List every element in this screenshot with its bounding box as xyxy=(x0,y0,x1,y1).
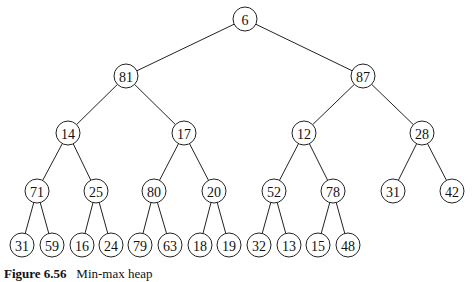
tree-node: 31 xyxy=(381,179,405,203)
tree-edge xyxy=(203,203,211,234)
node-label: 78 xyxy=(326,185,340,200)
tree-node: 25 xyxy=(84,179,108,203)
tree-node: 71 xyxy=(25,179,49,203)
tree-edge xyxy=(256,24,352,71)
node-label: 19 xyxy=(222,239,236,254)
tree-edge xyxy=(43,144,63,181)
node-label: 48 xyxy=(341,239,355,254)
node-label: 14 xyxy=(61,127,75,142)
node-label: 71 xyxy=(30,185,44,200)
tree-node: 48 xyxy=(336,233,360,257)
node-label: 25 xyxy=(89,185,103,200)
tree-node: 19 xyxy=(217,233,241,257)
tree-edge xyxy=(157,203,166,234)
tree-edge xyxy=(143,203,151,234)
tree-node: 63 xyxy=(158,233,182,257)
tree-node: 32 xyxy=(247,233,271,257)
node-label: 31 xyxy=(15,239,29,254)
tree-node: 80 xyxy=(142,179,166,203)
node-label: 59 xyxy=(45,239,59,254)
tree-edge xyxy=(336,203,345,234)
node-label: 32 xyxy=(252,239,266,254)
tree-node: 6 xyxy=(233,7,257,31)
tree-node: 79 xyxy=(128,233,152,257)
tree-edge xyxy=(321,203,330,234)
tree-node: 52 xyxy=(262,179,286,203)
node-label: 6 xyxy=(242,13,249,28)
node-label: 81 xyxy=(119,70,133,85)
tree-node: 16 xyxy=(70,233,94,257)
node-label: 16 xyxy=(75,239,89,254)
tree-edge xyxy=(77,84,118,124)
tree-node: 20 xyxy=(202,179,226,203)
node-label: 18 xyxy=(193,239,207,254)
tree-edge xyxy=(262,203,271,234)
tree-node: 12 xyxy=(292,121,316,145)
tree-edge xyxy=(217,203,226,234)
tree-node: 13 xyxy=(277,233,301,257)
node-label: 63 xyxy=(163,239,177,254)
tree-edges xyxy=(25,24,446,233)
tree-nodes: 6818714171228712580205278314231591624796… xyxy=(10,7,464,257)
tree-edge xyxy=(309,144,327,181)
node-label: 12 xyxy=(297,127,311,142)
tree-edge xyxy=(99,203,108,234)
node-label: 17 xyxy=(177,127,191,142)
tree-node: 87 xyxy=(351,64,375,88)
node-label: 31 xyxy=(386,185,400,200)
tree-edge xyxy=(372,84,414,124)
tree-edge xyxy=(313,84,355,124)
tree-edge xyxy=(280,144,299,181)
tree-edge xyxy=(85,203,93,234)
tree-edge xyxy=(135,84,176,124)
tree-node: 59 xyxy=(40,233,64,257)
node-label: 80 xyxy=(147,185,161,200)
node-label: 28 xyxy=(415,127,429,142)
tree-node: 28 xyxy=(410,121,434,145)
tree-node: 42 xyxy=(440,179,464,203)
node-label: 15 xyxy=(311,239,325,254)
tree-edge xyxy=(73,144,91,180)
figure-number: Figure 6.56 xyxy=(4,266,67,281)
tree-edge xyxy=(137,24,234,71)
tree-edge xyxy=(190,144,209,181)
tree-node: 81 xyxy=(114,64,138,88)
tree-node: 17 xyxy=(172,121,196,145)
tree-node: 15 xyxy=(306,233,330,257)
node-label: 87 xyxy=(356,70,370,85)
tree-edge xyxy=(160,144,179,181)
node-label: 13 xyxy=(282,239,296,254)
tree-node: 18 xyxy=(188,233,212,257)
tree-edge xyxy=(25,203,34,234)
tree-node: 14 xyxy=(56,121,80,145)
tree-edge xyxy=(428,144,447,181)
node-label: 24 xyxy=(104,239,118,254)
figure-title: Min-max heap xyxy=(76,266,152,281)
node-label: 42 xyxy=(445,185,459,200)
node-label: 79 xyxy=(133,239,147,254)
tree-edge xyxy=(40,203,49,234)
tree-node: 24 xyxy=(99,233,123,257)
tree-node: 78 xyxy=(321,179,345,203)
tree-node: 31 xyxy=(10,233,34,257)
node-label: 52 xyxy=(267,185,281,200)
tree-edge xyxy=(277,203,286,234)
tree-edge xyxy=(398,144,416,181)
figure-caption: Figure 6.56 Min-max heap xyxy=(4,266,153,282)
node-label: 20 xyxy=(207,185,221,200)
